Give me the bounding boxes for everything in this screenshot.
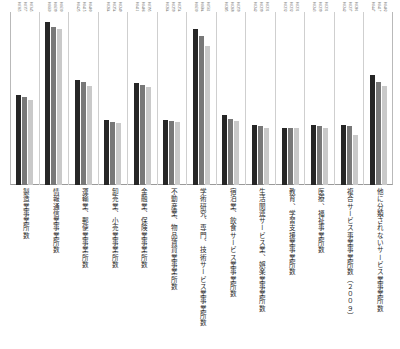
bar-item: 0.0357 [22, 12, 27, 185]
bar-item: 0.0232 [282, 12, 287, 185]
bar-value-label: 0.0264 [105, 2, 108, 11]
category-label-text: 金融業、保険業事業所数 [139, 188, 146, 268]
bar-value-label: 0.0402 [383, 2, 386, 11]
bar-value-label: 0.0285 [223, 2, 226, 11]
bar-cluster: 0.06600.06390.0630 [40, 12, 69, 185]
bar-value-label: 0.0630 [194, 2, 197, 11]
category-label: 製造業事業所数 [10, 188, 39, 346]
bar-item: 0.0417 [376, 12, 381, 185]
bar [323, 128, 328, 185]
bar [16, 95, 21, 185]
bar-item: 0.0345 [28, 12, 33, 185]
bar-item: 0.0237 [347, 12, 352, 185]
category-label: 学術研究、専門、技術サービス業事業所数 [187, 188, 216, 346]
bar-value-label: 0.0417 [377, 2, 380, 11]
bar-value-label: 0.0660 [46, 2, 49, 11]
bar [347, 126, 352, 185]
bar-item: 0.0231 [294, 12, 299, 185]
bar [22, 97, 27, 185]
bar-value-label: 0.0264 [164, 2, 167, 11]
bar-value-label: 0.0604 [200, 2, 203, 11]
bar-item: 0.0239 [317, 12, 322, 185]
bar-item: 0.0639 [51, 12, 56, 185]
category-label: 生活関連サービス業、娯楽業事業所数 [246, 188, 275, 346]
category-label-text: 生活関連サービス業、娯楽業事業所数 [257, 188, 264, 312]
bar-item: 0.0243 [311, 12, 316, 185]
bar-cluster: 0.02850.02680.0259 [217, 12, 246, 185]
bar-value-label: 0.0239 [318, 2, 321, 11]
category-label: 他に分類されないサービス業事業所数 [364, 188, 393, 346]
category-label: 医療、福祉事業所数 [305, 188, 334, 346]
bar [341, 125, 346, 185]
bar-value-label: 0.0237 [347, 2, 350, 11]
bar-item: 0.0447 [370, 12, 375, 185]
bar [116, 123, 121, 185]
bar-value-label: 0.0231 [265, 2, 268, 11]
category-label: 複合サービス事業事業所数（２００９） [334, 188, 363, 346]
bar-cluster: 0.02320.02320.0231 [276, 12, 305, 185]
bar [57, 29, 62, 185]
bar-item: 0.0249 [116, 12, 121, 185]
bar-item: 0.0264 [163, 12, 168, 185]
bar [81, 82, 86, 185]
bar-group: 0.02320.02320.0231 [276, 12, 306, 185]
bar [311, 125, 316, 185]
bar-group: 0.02430.02390.0231 [305, 12, 335, 185]
bar-value-label: 0.0231 [324, 2, 327, 11]
bar-item: 0.0259 [234, 12, 239, 185]
bar-item: 0.0561 [205, 12, 210, 185]
bar-value-label: 0.0231 [294, 2, 297, 11]
category-label-text: 医療、福祉事業所数 [316, 188, 323, 254]
bar-item: 0.0242 [252, 12, 257, 185]
bar-value-label: 0.0259 [235, 2, 238, 11]
bar-value-label: 0.0395 [147, 2, 150, 11]
bar-cluster: 0.04250.04150.0400 [69, 12, 98, 185]
bar-item: 0.0264 [104, 12, 109, 185]
bar-value-label: 0.0630 [58, 2, 61, 11]
bar-cluster: 0.03650.03570.0345 [10, 12, 39, 185]
bar [370, 75, 375, 185]
bar-value-label: 0.0249 [117, 2, 120, 11]
bar-cluster: 0.02640.02540.0249 [99, 12, 128, 185]
bar-value-label: 0.0357 [23, 2, 26, 11]
bar-item: 0.0231 [323, 12, 328, 185]
category-label-text: 運輸業、郵便業事業所数 [80, 188, 87, 268]
category-label-text: 不動産業、物品賃貸業事業所数 [169, 188, 176, 290]
bar-value-label: 0.0232 [282, 2, 285, 11]
bar-value-label: 0.0400 [88, 2, 91, 11]
category-label-text: 卸売業、小売業事業所数 [110, 188, 117, 268]
bar [258, 126, 263, 185]
bar-cluster: 0.02430.02390.0231 [305, 12, 334, 185]
category-label-text: 他に分類されないサービス業事業所数 [375, 188, 382, 312]
bar-value-label: 0.0259 [170, 2, 173, 11]
bar [110, 122, 115, 185]
bar-value-label: 0.0242 [341, 2, 344, 11]
bar-item: 0.0254 [175, 12, 180, 185]
bar-item: 0.0254 [110, 12, 115, 185]
category-label: 卸売業、小売業事業所数 [98, 188, 127, 346]
bar-groups: 0.03650.03570.03450.06600.06390.06300.04… [10, 12, 393, 185]
bar-item: 0.0406 [140, 12, 145, 185]
bar-value-label: 0.0345 [29, 2, 32, 11]
bar [282, 128, 287, 185]
bar-value-label: 0.0561 [206, 2, 209, 11]
bar-value-label: 0.0365 [17, 2, 20, 11]
category-axis-labels: 製造業事業所数情報通信業事業所数運輸業、郵便業事業所数卸売業、小売業事業所数金融… [10, 188, 393, 346]
bar-value-label: 0.0425 [76, 2, 79, 11]
bar-cluster: 0.06300.06040.0561 [187, 12, 216, 185]
bar-item: 0.0400 [87, 12, 92, 185]
category-label: 金融業、保険業事業所数 [128, 188, 157, 346]
bar [382, 86, 387, 185]
bar-item: 0.0425 [75, 12, 80, 185]
bar [51, 27, 56, 185]
bar-value-label: 0.0254 [111, 2, 114, 11]
bar [234, 121, 239, 185]
bar [104, 120, 109, 185]
category-label-text: 教育、学習支援業事業所数 [286, 188, 293, 276]
bar-item: 0.0365 [16, 12, 21, 185]
bar-value-label: 0.0243 [312, 2, 315, 11]
bar-item: 0.0395 [146, 12, 151, 185]
bar [134, 83, 139, 185]
plot-area: 0.03650.03570.03450.06600.06390.06300.04… [10, 12, 393, 185]
bar-item: 0.0630 [57, 12, 62, 185]
